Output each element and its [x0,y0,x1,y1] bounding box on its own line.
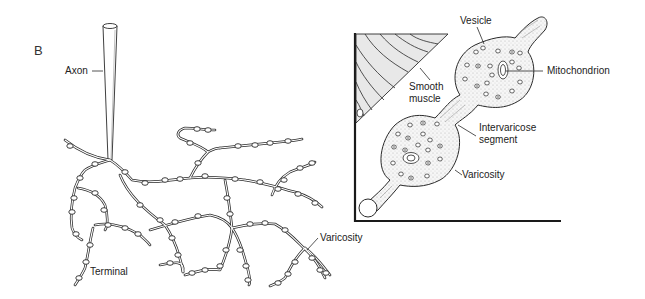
varicosity-label-right: Varicosity [462,169,505,181]
smooth-muscle-label-line2: muscle [409,93,441,105]
smooth-muscle [356,34,448,123]
intervaricose-leader-line [458,125,476,136]
panel-letter: B [34,43,43,58]
varicosity-detail-leader-line [455,170,462,175]
mitochondrion-lower [403,153,419,164]
intervaricose-label-line2: segment [479,134,517,146]
diagram-drawing [0,0,645,299]
varicosity-label-left: Varicosity [320,232,363,244]
terminal-network [65,128,330,286]
diagram-figure: B Axon Terminal Varicosity Vesicle Mitoc… [0,0,645,299]
mitochondrion-upper [498,61,508,79]
mitochondrion-label: Mitochondrion [547,65,610,77]
vesicle-leader-line [477,27,484,44]
axon-shaft [103,24,117,161]
varicosity-leader-line [307,238,318,250]
intervaricose-label-line1: Intervaricose [479,122,536,134]
terminal-label: Terminal [90,266,128,278]
vesicle-label: Vesicle [460,15,492,27]
smooth-muscle-leader-line [420,68,430,80]
smooth-muscle-label-line1: Smooth [409,81,443,93]
axon-label: Axon [65,65,88,77]
